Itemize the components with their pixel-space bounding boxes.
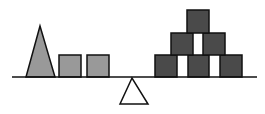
dark-block-4 (171, 33, 193, 55)
left-side-group (26, 26, 109, 77)
dark-block-5 (203, 33, 225, 55)
gray-square-weight-2 (87, 55, 109, 77)
right-side-group (155, 10, 242, 77)
balance-scale-diagram (0, 0, 265, 114)
dark-block-3 (220, 55, 242, 77)
gray-triangle-weight (26, 26, 55, 77)
dark-block-6 (187, 10, 209, 33)
dark-block-1 (155, 55, 177, 77)
dark-block-2 (188, 55, 209, 77)
fulcrum-triangle (120, 78, 148, 104)
gray-square-weight-1 (59, 55, 81, 77)
